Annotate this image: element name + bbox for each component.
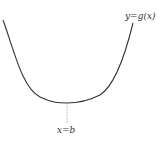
curve-g [3, 20, 133, 103]
curve-label: y=g(x) [124, 11, 156, 21]
min-x-label: x=b [57, 125, 76, 135]
function-graph: y=g(x) x=b [0, 0, 160, 146]
